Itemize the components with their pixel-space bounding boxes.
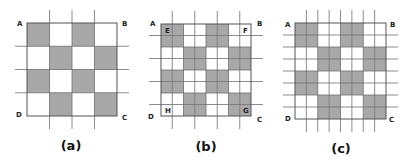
shaded-cell [217, 70, 228, 82]
shaded-cell [329, 95, 340, 107]
shaded-cell [352, 35, 363, 47]
shaded-cell [363, 59, 374, 71]
shaded-cell [217, 36, 228, 48]
shaded-cell [341, 35, 352, 47]
shaded-cell [195, 105, 206, 117]
shaded-cell [240, 93, 251, 105]
shaded-cell [217, 24, 228, 36]
shaded-cell [329, 107, 340, 119]
shaded-cell [172, 36, 183, 48]
corner-label-c-C: C [389, 116, 394, 124]
shaded-cell [295, 35, 306, 47]
shaded-cell [229, 47, 240, 59]
caption-b: (b) [195, 139, 216, 154]
corner-label-c-B: B [390, 21, 395, 29]
shaded-cell [229, 105, 240, 117]
checkerboard-figure: A B C D (a) A B C D E F H G (b) A B C D … [0, 0, 410, 160]
shaded-cell [206, 36, 217, 48]
shaded-cell [206, 24, 217, 36]
shaded-cell [375, 47, 386, 59]
shaded-cell [206, 70, 217, 82]
shaded-cell [375, 95, 386, 107]
corner-label-c-D: D [285, 115, 291, 123]
shaded-cell [295, 83, 306, 95]
shaded-cell [217, 82, 228, 94]
corner-label-a-B: B [122, 20, 127, 28]
corner-label-a-C: C [122, 114, 127, 122]
shaded-cell [363, 95, 374, 107]
shaded-cell [184, 59, 195, 71]
panel-a: A B C D (a) [15, 10, 129, 153]
panel-c: A B C D (c) [283, 10, 398, 156]
shaded-cell [352, 83, 363, 95]
corner-label-b-B: B [257, 20, 262, 28]
shaded-cell [318, 107, 329, 119]
shaded-cell [172, 70, 183, 82]
corner-label-c-A: A [285, 21, 291, 29]
inner-label-H: H [165, 107, 171, 115]
shaded-cell [50, 46, 73, 69]
shaded-cell [295, 71, 306, 83]
shaded-cell [161, 82, 172, 94]
shaded-cell [95, 93, 118, 116]
shaded-cell [306, 83, 317, 95]
shaded-cell [363, 47, 374, 59]
inner-label-E: E [165, 27, 170, 35]
shaded-cell [195, 93, 206, 105]
shaded-cell [95, 46, 118, 69]
shaded-cell [306, 71, 317, 83]
shaded-cell [375, 59, 386, 71]
shaded-cell [329, 59, 340, 71]
shaded-cell [27, 70, 50, 93]
shaded-cell [341, 71, 352, 83]
shaded-cell [229, 93, 240, 105]
inner-label-F: F [243, 27, 248, 35]
shaded-cell [375, 107, 386, 119]
shaded-cell [72, 23, 95, 46]
shaded-cell [318, 47, 329, 59]
shaded-cell [306, 35, 317, 47]
shaded-cell [172, 24, 183, 36]
inner-label-G: G [243, 107, 249, 115]
shaded-cell [240, 47, 251, 59]
shaded-cell [329, 47, 340, 59]
shaded-cell [229, 59, 240, 71]
shaded-cell [295, 23, 306, 35]
shaded-cell [318, 95, 329, 107]
shaded-cell [27, 23, 50, 46]
shaded-cell [161, 36, 172, 48]
corner-label-a-D: D [16, 111, 22, 119]
shaded-cell [161, 70, 172, 82]
shaded-cell [240, 59, 251, 71]
caption-c: (c) [331, 141, 351, 156]
shaded-cell [306, 23, 317, 35]
shaded-cell [184, 105, 195, 117]
shaded-cell [352, 71, 363, 83]
shaded-cell [184, 93, 195, 105]
shaded-cell [72, 70, 95, 93]
shaded-cell [318, 59, 329, 71]
caption-a: (a) [61, 138, 82, 153]
corner-label-b-A: A [150, 20, 156, 28]
corner-label-b-C: C [257, 116, 262, 124]
shaded-cell [50, 93, 73, 116]
shaded-cell [172, 82, 183, 94]
corner-label-a-A: A [17, 20, 23, 28]
panel-b: A B C D E F H G (b) [148, 11, 263, 154]
shaded-cell [352, 23, 363, 35]
shaded-cell [206, 82, 217, 94]
shaded-cell [195, 47, 206, 59]
shaded-cell [341, 23, 352, 35]
corner-label-b-D: D [148, 113, 154, 121]
shaded-cell [363, 107, 374, 119]
shaded-cell [195, 59, 206, 71]
shaded-cell [184, 47, 195, 59]
shaded-cell [341, 83, 352, 95]
